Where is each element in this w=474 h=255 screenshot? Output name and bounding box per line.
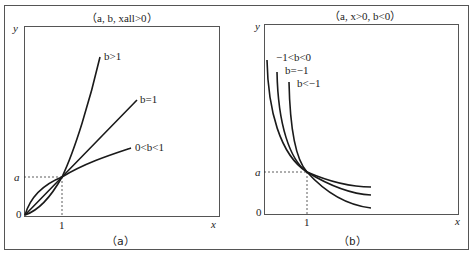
curve-b-eq-1 (25, 100, 137, 215)
panel-a-plot (24, 27, 220, 218)
panel-a-x-axis-label: x (211, 218, 216, 230)
panel-b-x-axis-label: x (455, 215, 460, 227)
panel-a-x-tick-label: 1 (59, 219, 65, 231)
panel-a-caption: （a） (106, 232, 135, 248)
figure-svg (0, 0, 474, 255)
panel-a-y-tick-label: a (14, 171, 20, 183)
panel-b-origin-label: 0 (256, 206, 262, 218)
panel-a-origin-label: 0 (16, 208, 22, 220)
panel-b-title: （a, x>0, b<0） (329, 7, 401, 23)
panel-b-curve-label-neg1-lt-b-lt-0: −1<b<0 (276, 51, 311, 63)
curve-b-eq-neg1 (277, 72, 371, 195)
panel-b-x-tick-label: 1 (304, 216, 310, 228)
panel-a-curve-label-b-gt-1: b>1 (104, 50, 121, 62)
panel-a-curve-label-b-eq-1: b=1 (140, 93, 157, 105)
panel-a-y-axis-label: y (13, 22, 18, 34)
panel-b-y-axis-label: y (255, 20, 260, 32)
curve-b-lt-neg1 (289, 82, 371, 208)
curve-b-gt-1 (25, 57, 100, 215)
panel-b-y-tick-label: a (255, 166, 261, 178)
panel-a-title: （a, b, xall>0） (86, 9, 158, 25)
panel-b-curve-label-b-eq-neg1: b=−1 (285, 64, 308, 76)
panel-b-curve-label-b-lt-neg1: b<−1 (297, 77, 320, 89)
panel-b-caption: （b） (338, 232, 367, 248)
panel-a-curve-label-0-lt-b-lt-1: 0<b<1 (135, 141, 164, 153)
